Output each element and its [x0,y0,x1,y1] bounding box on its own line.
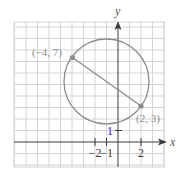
point-a-label: (−4, 7) [32,46,62,59]
y-tick-label: 1 [107,124,113,138]
point-b [138,103,143,108]
x-tick-label: −1 [100,146,113,160]
point-b-label: (2, 3) [136,112,160,125]
x-axis-label: x [169,135,176,149]
coordinate-diagram: x y −2−121 (−4, 7) (2, 3) [0,0,183,175]
point-a [70,55,75,60]
x-tick-label: 2 [138,146,144,160]
y-axis-label: y [114,4,121,18]
